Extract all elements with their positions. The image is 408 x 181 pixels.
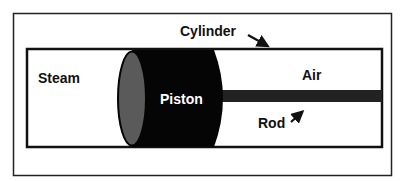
piston-rod bbox=[222, 90, 382, 102]
label-piston: Piston bbox=[160, 91, 203, 107]
piston-cylinder-diagram: Cylinder Steam Piston Air Rod bbox=[0, 0, 408, 181]
label-steam: Steam bbox=[38, 70, 80, 86]
label-rod: Rod bbox=[258, 115, 285, 131]
piston-face bbox=[118, 52, 146, 146]
label-air: Air bbox=[302, 67, 322, 83]
label-cylinder: Cylinder bbox=[180, 23, 237, 39]
